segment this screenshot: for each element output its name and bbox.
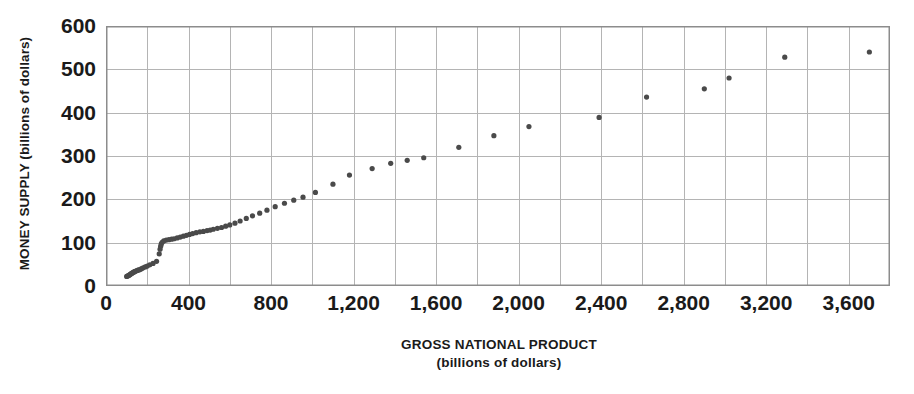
x-tick-label: 2,000 (474, 292, 564, 313)
data-point (347, 172, 352, 177)
data-point (456, 145, 461, 150)
data-point (264, 208, 269, 213)
data-point (257, 211, 262, 216)
data-point (782, 55, 787, 60)
data-point (154, 259, 159, 264)
data-point (702, 86, 707, 91)
plot-svg (106, 26, 890, 286)
data-point (273, 204, 278, 209)
x-axis-title-main: GROSS NATIONAL PRODUCT (401, 337, 597, 352)
data-point (644, 94, 649, 99)
data-point (726, 75, 731, 80)
data-point (300, 195, 305, 200)
data-point (250, 213, 255, 218)
data-points-series (124, 49, 872, 279)
x-tick-label: 3,200 (721, 292, 811, 313)
x-tick-label: 2,800 (639, 292, 729, 313)
data-point (596, 115, 601, 120)
x-axis-title-sub: (billions of dollars) (107, 354, 891, 372)
x-tick-label: 800 (226, 292, 316, 313)
scatter-chart-figure: MONEY SUPPLY (billions of dollars) 01002… (0, 0, 914, 394)
data-point (867, 49, 872, 54)
gridlines (106, 26, 890, 286)
data-point (405, 158, 410, 163)
data-point (313, 190, 318, 195)
x-tick-label: 3,600 (804, 292, 894, 313)
x-tick-label: 400 (144, 292, 234, 313)
data-point (526, 124, 531, 129)
data-point (238, 218, 243, 223)
x-tick-label: 1,200 (309, 292, 399, 313)
data-point (370, 166, 375, 171)
data-point (232, 221, 237, 226)
data-point (291, 198, 296, 203)
data-point (421, 155, 426, 160)
x-tick-label: 0 (61, 292, 151, 313)
plot-area (106, 26, 890, 286)
data-point (282, 201, 287, 206)
data-point (227, 222, 232, 227)
data-point (491, 133, 496, 138)
data-point (388, 161, 393, 166)
x-tick-label: 2,400 (556, 292, 646, 313)
data-point (330, 182, 335, 187)
data-point (244, 216, 249, 221)
data-point (157, 251, 162, 256)
x-axis-title: GROSS NATIONAL PRODUCT (billions of doll… (107, 336, 891, 372)
x-tick-label: 1,600 (391, 292, 481, 313)
